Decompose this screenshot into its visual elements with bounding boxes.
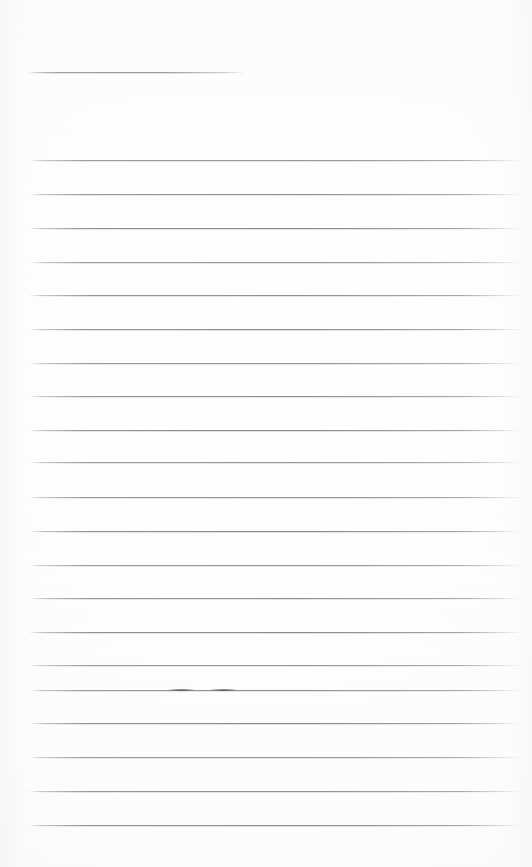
ruled-line[interactable] [28,791,521,792]
ruled-line[interactable] [28,462,521,463]
ruled-line[interactable] [28,363,521,364]
ruled-line[interactable] [28,598,521,599]
ghost-bleed-bottom [0,847,532,865]
ruled-line[interactable] [28,723,521,724]
ruled-line[interactable] [28,497,521,498]
pen-dash-right [210,689,237,691]
ruled-line[interactable] [28,396,521,397]
ruled-line[interactable] [28,295,521,296]
ruled-line[interactable] [28,665,521,666]
ruled-line[interactable] [28,757,521,758]
ruled-line[interactable] [28,825,521,826]
ruled-line[interactable] [28,329,521,330]
pen-dash-left [168,689,195,691]
ruled-line[interactable] [28,262,521,263]
ruled-line[interactable] [28,194,521,195]
ghost-bleed-top-text [238,0,294,12]
title-write-on-line[interactable] [28,72,246,73]
ruled-line[interactable] [28,632,521,633]
ruled-line[interactable] [28,228,521,229]
ruled-line[interactable] [28,160,521,161]
page-edge-shadow-left [0,0,26,867]
page-edge-shadow-right [506,0,532,867]
ruled-line[interactable] [28,430,521,431]
paper-grain-layer [0,0,532,867]
ghost-bleed-top [0,0,532,12]
ghost-bleed-bottom-text [223,850,308,862]
ruled-line[interactable] [28,565,521,566]
scanned-page [0,0,532,867]
ruled-line[interactable] [28,531,521,532]
paper-tone-layer [0,0,532,867]
ruled-line[interactable] [28,690,521,691]
